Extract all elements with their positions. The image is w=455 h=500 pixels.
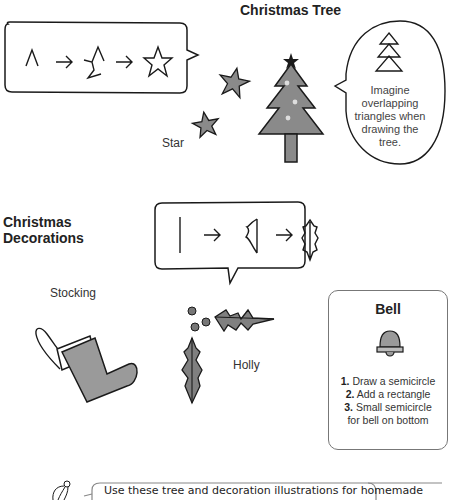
arrow-right-icon (204, 229, 220, 241)
caret-stroke-icon (26, 50, 38, 66)
bell-step-3: 3. Small semicircle (329, 401, 447, 414)
stocking-label: Stocking (50, 286, 96, 300)
arrow-right-icon (56, 56, 72, 68)
section-title-line1: Christmas (3, 214, 84, 230)
bell-instructions-card: Bell 1. Draw a semicircle 2. Add a recta… (328, 290, 448, 450)
holly-berries (188, 307, 210, 331)
christmas-tree-drawing (255, 50, 335, 165)
arrow-right-icon (276, 229, 292, 241)
star-label: Star (162, 136, 184, 150)
partial-star-icon (84, 47, 104, 78)
section-title-christmas-decorations: Christmas Decorations (3, 214, 84, 246)
pen-nib-icon (50, 480, 74, 500)
bell-step-1: 1. Draw a semicircle (329, 375, 447, 388)
bell-steps-list: 1. Draw a semicircle 2. Add a rectangle … (329, 375, 447, 427)
section-title-christmas-tree: Christmas Tree (240, 2, 341, 18)
star-outline-icon (144, 47, 172, 76)
holly-label: Holly (233, 358, 260, 372)
arrow-right-icon (116, 56, 132, 68)
half-leaf-icon (246, 219, 257, 253)
star-drawing-large (218, 66, 252, 100)
stocking-drawing (33, 312, 143, 407)
stacked-triangles-icon (376, 33, 402, 71)
tree-tip-text: Imagine overlapping triangles when drawi… (352, 84, 428, 149)
bell-step-3-cont: for bell on bottom (329, 414, 447, 427)
bell-step-2: 2. Add a rectangle (329, 388, 447, 401)
holly-leaf-outline-icon (300, 218, 320, 263)
footer-tip-text: Use these tree and decoration illustrati… (104, 484, 423, 497)
holly-steps-bubble (150, 195, 310, 290)
section-title-line2: Decorations (3, 230, 84, 246)
star-drawing-small (191, 110, 221, 140)
bell-card-title: Bell (329, 301, 447, 317)
star-steps-bubble (0, 0, 210, 100)
bell-icon (375, 329, 405, 359)
